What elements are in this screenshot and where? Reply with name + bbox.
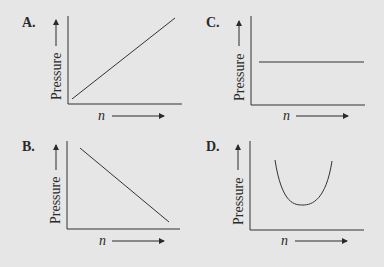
y-axis-label: Pressure: [231, 178, 246, 225]
panel-label: A.: [22, 15, 36, 30]
figure: A. Pressure n C. Pressure n B. Pressure …: [0, 0, 384, 267]
data-line: [72, 18, 175, 99]
panel-label: C.: [206, 15, 220, 30]
panel-b: B. Pressure n: [22, 139, 180, 248]
x-axis-label: n: [99, 233, 106, 248]
panel-label: B.: [22, 139, 35, 154]
y-axis-label: Pressure: [48, 177, 63, 224]
data-line: [80, 148, 169, 222]
panel-label: D.: [206, 139, 220, 154]
data-curve: [275, 160, 332, 205]
x-axis-label: n: [283, 108, 290, 123]
x-axis-label: n: [98, 108, 105, 123]
panel-a: A. Pressure n: [22, 15, 182, 123]
panel-d: D. Pressure n: [206, 139, 364, 248]
panel-c: C. Pressure n: [206, 15, 365, 123]
x-axis-label: n: [281, 233, 288, 248]
y-axis-label: Pressure: [49, 53, 64, 100]
y-axis-label: Pressure: [232, 54, 247, 101]
